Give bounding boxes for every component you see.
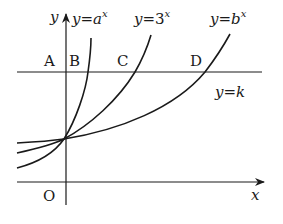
curve-3-label: y=3x — [133, 8, 171, 28]
point-b-label: B — [69, 52, 80, 70]
point-d-label: D — [190, 52, 202, 70]
y-axis-label: y — [49, 8, 59, 26]
x-axis-label: x — [251, 186, 260, 204]
graph-canvas: y y=ax y=3x y=bx A B C D y=k O x — [0, 0, 283, 224]
line-k-label: y=k — [214, 83, 245, 101]
origin-label: O — [43, 187, 55, 205]
exponential-graph-figure: y y=ax y=3x y=bx A B C D y=k O x — [0, 0, 283, 224]
curve-b-label: y=bx — [209, 8, 247, 28]
point-c-label: C — [117, 52, 128, 70]
curve-a-label: y=ax — [71, 8, 108, 28]
point-a-label: A — [43, 52, 55, 70]
